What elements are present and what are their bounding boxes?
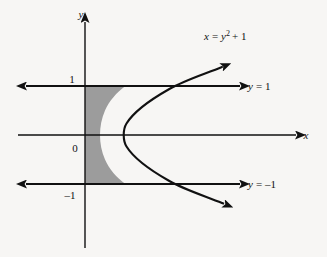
curve-label-equals: = (212, 30, 218, 42)
tick-label-y-one: 1 (69, 73, 75, 85)
x-axis-label: x (303, 129, 309, 141)
lower-label-value: –1 (264, 178, 276, 190)
curve-label-lead: x (203, 30, 209, 42)
y-axis-label: y (78, 8, 84, 20)
upper-label-variable: y (247, 80, 253, 92)
tick-label-y-minus-one: –1 (64, 189, 76, 201)
svg-text:y=1: y=1 (247, 80, 271, 92)
upper-label-value: 1 (265, 80, 271, 92)
coordinate-plot: y x 0 1 –1 x=y2+ 1 y=1 y=–1 (0, 0, 327, 257)
lower-label-equals: = (256, 178, 262, 190)
label-y-equals-1: y=1 (247, 80, 271, 92)
lower-label-variable: y (247, 178, 253, 190)
plot-background (0, 0, 327, 257)
svg-text:y=–1: y=–1 (247, 178, 276, 190)
label-y-equals-minus-1: y=–1 (247, 178, 276, 190)
parabola-lower-arrowhead-stub (222, 203, 224, 204)
figure-container: y x 0 1 –1 x=y2+ 1 y=1 y=–1 (0, 0, 327, 257)
upper-label-equals: = (256, 80, 262, 92)
curve-label-tail: + 1 (232, 30, 246, 42)
origin-label: 0 (72, 142, 78, 154)
curve-label-exponent: 2 (226, 29, 230, 38)
